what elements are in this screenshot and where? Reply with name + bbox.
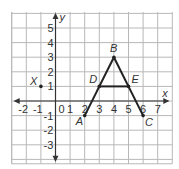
- y-tick-label: 2: [48, 66, 54, 78]
- y-tick-label: 5: [48, 22, 54, 34]
- x-axis-label: x: [161, 87, 168, 99]
- point-d-icon: [98, 85, 102, 89]
- x-tick-label: 3: [96, 103, 102, 115]
- y-axis-label: y: [59, 11, 67, 23]
- y-tick-label: 1: [48, 80, 54, 92]
- x-tick-label: 5: [126, 103, 132, 115]
- x-tick-label: 7: [155, 103, 161, 115]
- point-label-d: D: [89, 73, 97, 85]
- x-tick-label: -2: [18, 103, 28, 115]
- y-tick-label: -2: [44, 124, 54, 136]
- point-b-icon: [112, 55, 116, 59]
- y-tick-label: 4: [48, 37, 54, 49]
- point-label-b: B: [110, 42, 117, 54]
- point-a-icon: [83, 114, 87, 118]
- point-x-icon: [39, 85, 43, 89]
- y-tick-label: -3: [44, 139, 54, 151]
- x-tick-label: 4: [111, 103, 117, 115]
- point-label-c: C: [145, 116, 153, 128]
- x-tick-label: -1: [33, 103, 43, 115]
- point-label-e: E: [132, 73, 140, 85]
- y-tick-label: 3: [48, 51, 54, 63]
- point-e-icon: [127, 85, 131, 89]
- point-label-x: X: [29, 75, 38, 87]
- x-tick-label: 0: [59, 103, 65, 115]
- coordinate-plane: yx-2-10123456754321-1-2-3ABCDEX: [0, 0, 179, 169]
- y-tick-label: -1: [44, 110, 54, 122]
- point-label-a: A: [75, 115, 83, 127]
- x-tick-label: 1: [67, 103, 73, 115]
- y-axis-arrow-down-icon: [53, 156, 59, 162]
